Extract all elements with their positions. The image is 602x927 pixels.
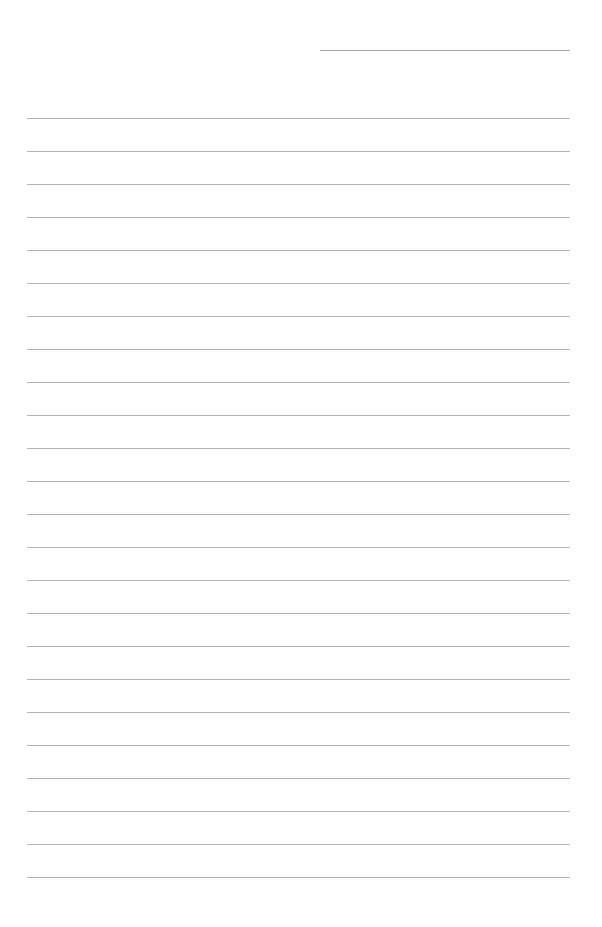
ruled-line bbox=[27, 745, 570, 746]
ruled-line bbox=[27, 481, 570, 482]
ruled-line bbox=[27, 316, 570, 317]
header-name-line bbox=[320, 50, 570, 51]
ruled-line bbox=[27, 448, 570, 449]
ruled-line bbox=[27, 613, 570, 614]
ruled-line bbox=[27, 118, 570, 119]
ruled-line bbox=[27, 646, 570, 647]
ruled-line bbox=[27, 844, 570, 845]
ruled-line bbox=[27, 679, 570, 680]
ruled-line bbox=[27, 580, 570, 581]
ruled-line bbox=[27, 877, 570, 878]
ruled-line bbox=[27, 811, 570, 812]
ruled-line bbox=[27, 415, 570, 416]
ruled-line bbox=[27, 250, 570, 251]
ruled-line bbox=[27, 382, 570, 383]
ruled-line bbox=[27, 349, 570, 350]
ruled-line bbox=[27, 184, 570, 185]
ruled-line bbox=[27, 151, 570, 152]
ruled-line bbox=[27, 217, 570, 218]
ruled-line bbox=[27, 514, 570, 515]
ruled-line bbox=[27, 547, 570, 548]
ruled-line bbox=[27, 283, 570, 284]
ruled-line bbox=[27, 712, 570, 713]
ruled-line bbox=[27, 778, 570, 779]
lined-paper-page bbox=[0, 0, 602, 927]
